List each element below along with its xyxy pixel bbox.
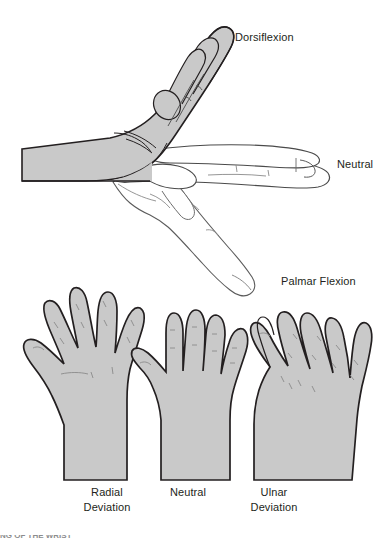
label-ulnar-deviation-line1: Ulnar [229,485,319,500]
cropped-footer-text-value: NG OF THE WRIST [0,535,140,540]
label-neutral-dorsal-line1: Neutral [143,485,233,500]
lateral-view-group [22,27,330,296]
label-radial-deviation-line2: Deviation [62,500,152,515]
label-ulnar-deviation-line2: Deviation [229,500,319,515]
radial-deviation-hand [24,288,144,480]
label-palmar-flexion: Palmar Flexion [281,275,356,287]
label-radial-deviation: Radial Deviation [62,485,152,515]
neutral-dorsal-hand-outline [132,310,248,480]
label-radial-deviation-line1: Radial [62,485,152,500]
neutral-dorsal-hand [132,310,248,480]
dorsal-view-group [24,288,372,480]
label-neutral-dorsal: Neutral [143,485,233,500]
ulnar-deviation-hand [251,312,372,480]
label-neutral-lateral: Neutral [337,158,373,170]
wrist-illustration-svg [0,0,392,543]
label-dorsiflexion: Dorsiflexion [235,31,294,43]
radial-deviation-hand-outline [24,288,144,480]
label-ulnar-deviation: Ulnar Deviation [229,485,319,515]
cropped-footer-text: NG OF THE WRIST [0,535,140,543]
wrist-range-of-motion-figure: Dorsiflexion Neutral Palmar Flexion Radi… [0,0,392,543]
ulnar-deviation-hand-outline [251,312,372,480]
